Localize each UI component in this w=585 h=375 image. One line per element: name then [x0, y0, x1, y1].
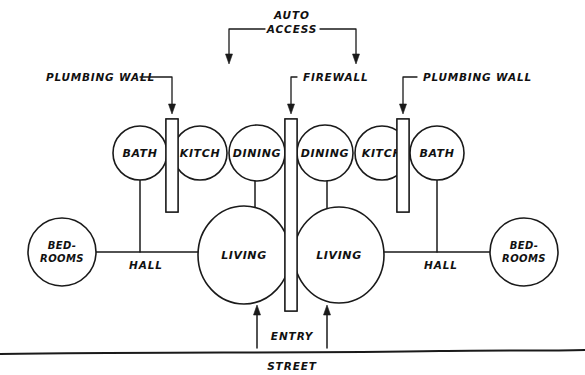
- plumbing-wall-right-leader: [403, 77, 417, 104]
- street-group: STREET: [0, 350, 585, 372]
- bubble-bedrooms-right-label-line2: ROOMS: [502, 253, 546, 264]
- bubble-diagram-canvas: AUTO ACCESS PLUMBING WALL FIREWALL PLUMB…: [0, 0, 585, 375]
- plumbing-wall-left-arrow-icon: [169, 104, 176, 114]
- entry-label: ENTRY: [271, 330, 314, 342]
- plumbing-wall-right[interactable]: [397, 119, 409, 212]
- bubble-diagram-svg: AUTO ACCESS PLUMBING WALL FIREWALL PLUMB…: [0, 0, 585, 375]
- plumbing-wall-right-callout: PLUMBING WALL: [400, 71, 532, 114]
- auto-access-arrow-right-icon: [353, 54, 360, 64]
- hall-left-label: HALL: [129, 259, 163, 271]
- bubble-kitch-left-label: KITCH: [180, 147, 220, 160]
- auto-access-arrow-left-icon: [226, 54, 233, 64]
- street-line: [0, 350, 585, 354]
- entry-arrow-right-icon: [324, 305, 331, 315]
- plumbing-wall-left[interactable]: [166, 119, 178, 212]
- bubble-bath-right-label: BATH: [420, 147, 455, 160]
- plumbing-wall-right-arrow-icon: [400, 104, 407, 114]
- auto-access-leader-right: [320, 29, 356, 55]
- bubble-bedrooms-left-label-line1: BED-: [48, 240, 77, 251]
- auto-access-label-line2: ACCESS: [266, 23, 318, 35]
- bubble-bedrooms-left[interactable]: [28, 218, 96, 286]
- bubble-bath-left-label: BATH: [123, 147, 158, 160]
- auto-access-leader-left: [229, 29, 265, 55]
- firewall[interactable]: [285, 119, 297, 311]
- street-label: STREET: [267, 360, 317, 372]
- bubble-bedrooms-right[interactable]: [490, 218, 558, 286]
- auto-access-callout: AUTO ACCESS: [226, 9, 360, 64]
- firewall-label: FIREWALL: [303, 71, 368, 83]
- bubble-dining-right-label: DINING: [301, 147, 349, 160]
- auto-access-label-line1: AUTO: [273, 9, 310, 21]
- firewall-leader: [291, 77, 297, 104]
- plumbing-wall-left-callout: PLUMBING WALL: [46, 71, 176, 114]
- plumbing-wall-left-label: PLUMBING WALL: [46, 71, 155, 83]
- bubble-living-right-label: LIVING: [316, 249, 362, 262]
- plumbing-wall-right-label: PLUMBING WALL: [423, 71, 532, 83]
- entry-arrow-left-icon: [254, 305, 261, 315]
- hall-right-label: HALL: [424, 259, 458, 271]
- bubble-dining-left-label: DINING: [233, 147, 281, 160]
- bubble-living-left-label: LIVING: [221, 249, 267, 262]
- firewall-arrow-icon: [288, 104, 295, 114]
- bubble-bedrooms-left-label-line2: ROOMS: [40, 253, 84, 264]
- bubble-bedrooms-right-label-line1: BED-: [510, 240, 539, 251]
- bubble-kitch-right-label: KITCH: [362, 147, 402, 160]
- firewall-callout: FIREWALL: [288, 71, 369, 114]
